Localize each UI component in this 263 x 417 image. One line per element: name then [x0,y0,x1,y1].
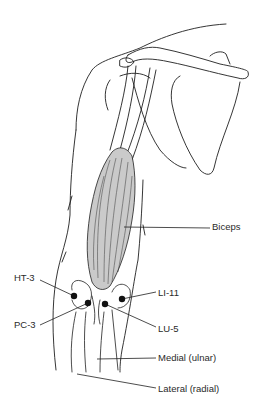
ht3-leader [40,280,74,296]
radius [100,312,104,372]
biceps-muscle [87,148,135,290]
shoulder-outline [76,24,226,130]
label-lateral-radial: Lateral (radial) [158,384,219,394]
lateral-leader [77,374,156,388]
point-lu5 [102,301,108,307]
ulna [71,312,76,372]
label-ht3: HT-3 [14,273,35,283]
point-pc3 [85,300,91,306]
point-li11 [119,296,125,302]
li11-leader [122,292,156,299]
label-medial-ulnar: Medial (ulnar) [158,353,216,363]
pc3-leader [40,303,88,325]
biceps-leader [124,227,210,228]
label-lu5: LU-5 [158,324,179,334]
label-biceps: Biceps [212,222,241,232]
arm-anatomy-diagram [0,0,263,417]
scapula [171,76,240,174]
label-pc3: PC-3 [14,320,36,330]
medial-leader [97,358,156,359]
humerus-head [105,73,150,110]
point-ht3 [71,293,77,299]
label-li11: LI-11 [158,288,179,298]
